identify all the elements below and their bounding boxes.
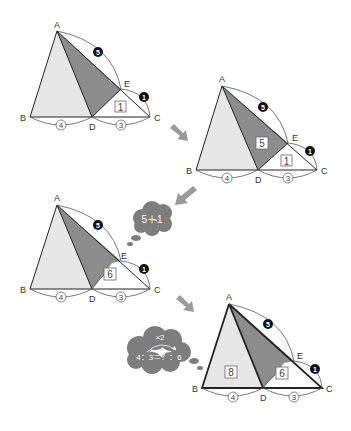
area-ADC: 6: [107, 269, 113, 280]
arrow-down-left-icon: [175, 186, 197, 205]
ratio-AE: 5: [96, 222, 100, 229]
ratio-EC: 1: [142, 94, 146, 101]
multiplier-text: ×2: [155, 333, 165, 342]
ratio-BD: 4: [59, 121, 64, 130]
ratio-DC: 3: [119, 121, 124, 130]
ratio-DC: 3: [286, 174, 291, 183]
ratio-AE: 5: [266, 321, 270, 328]
thought-text: 5＋1: [141, 214, 163, 225]
label-D: D: [255, 175, 262, 185]
label-D: D: [89, 294, 96, 304]
ratio-EC: 1: [313, 366, 317, 373]
area-EDC: 1: [284, 156, 290, 167]
ratio-BD: 4: [59, 293, 64, 302]
diagram-1: 4 3 5 1 1 A B D C E: [20, 20, 161, 132]
label-E: E: [297, 351, 303, 361]
thought-cloud: ×2 4：3＝？：6: [127, 326, 203, 374]
ratio-area-diagram: 4 3 5 1 1 A B D C E 4: [0, 0, 351, 431]
ratio-EC: 1: [308, 148, 312, 155]
label-B: B: [20, 113, 26, 123]
label-A: A: [54, 20, 60, 30]
thought-cloud: 5＋1: [127, 201, 172, 246]
label-A: A: [54, 193, 60, 203]
label-B: B: [20, 285, 26, 295]
ratio-EC: 1: [142, 266, 146, 273]
label-E: E: [121, 251, 127, 261]
label-B: B: [186, 166, 192, 176]
ratio-AE: 5: [96, 49, 100, 56]
arrow-down-right-icon: [170, 124, 188, 141]
label-E: E: [124, 79, 130, 89]
label-A: A: [226, 292, 232, 302]
label-C: C: [326, 384, 333, 394]
diagram-2: 4 3 5 1 5 1 A B D C E: [186, 74, 328, 185]
ratio-AE: 5: [261, 104, 265, 111]
area-ADC: 6: [279, 368, 285, 379]
area-ADE: 5: [259, 138, 265, 149]
ratio-BD: 4: [231, 393, 236, 402]
label-C: C: [154, 285, 161, 295]
ratio-BD: 4: [225, 174, 230, 183]
label-D: D: [89, 122, 96, 132]
label-E: E: [292, 133, 298, 143]
label-A: A: [219, 74, 225, 84]
ratio-DC: 3: [292, 393, 297, 402]
arrow-down-right-icon: [176, 295, 194, 312]
area-ABD: 8: [228, 367, 234, 378]
diagram-3: 4 3 5 1 6 A B D C E 5＋1: [20, 193, 172, 304]
label-C: C: [154, 113, 161, 123]
label-C: C: [321, 166, 328, 176]
area-EDC: 1: [118, 102, 124, 113]
label-D: D: [260, 393, 267, 403]
ratio-DC: 3: [119, 293, 124, 302]
proportion-text: 4：3＝？：6: [136, 353, 182, 362]
label-B: B: [192, 384, 198, 394]
diagram-4: 4 3 5 1 8 6 A B D C E ×: [127, 292, 333, 403]
